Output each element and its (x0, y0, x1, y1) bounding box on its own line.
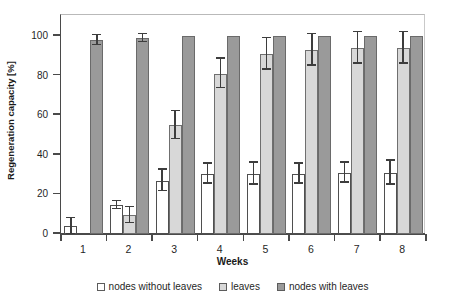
bar (351, 48, 364, 234)
error-bar-cap (171, 138, 180, 139)
error-bar-cap (386, 183, 395, 184)
bar (397, 48, 410, 234)
error-bar-cap (125, 222, 134, 223)
error-bar-cap (340, 181, 349, 182)
error-bar-line (311, 34, 312, 66)
bar-chart-figure: Regeneration capacity [%] 020406080100 1… (0, 0, 465, 307)
bar (273, 36, 286, 234)
chart-legend: nodes without leavesleavesnodes with lea… (0, 281, 465, 292)
x-axis-tick (243, 234, 245, 241)
plot-area (60, 14, 425, 234)
y-axis-tick-label: 0 (0, 228, 48, 239)
error-bar-cap (262, 68, 271, 69)
error-bar-line (253, 163, 254, 185)
error-bar-cap (158, 190, 167, 191)
bar (169, 125, 182, 234)
y-axis-tick-label: 80 (0, 69, 48, 80)
error-bar-cap (294, 162, 303, 163)
error-bar-cap (138, 33, 147, 34)
error-bar-cap (399, 62, 408, 63)
error-bar-cap (340, 161, 349, 162)
x-axis-tick-label: 1 (71, 243, 95, 255)
error-bar-cap (249, 161, 258, 162)
error-bar-line (402, 32, 403, 64)
error-bar-cap (66, 233, 75, 234)
error-bar-cap (307, 33, 316, 34)
error-bar-line (298, 164, 299, 184)
x-axis-tick (425, 234, 427, 241)
y-axis-tick-label: 100 (0, 30, 48, 41)
error-bar-cap (307, 64, 316, 65)
light-gray-square-icon (219, 283, 227, 291)
bar (214, 74, 227, 234)
legend-item: nodes with leaves (277, 281, 369, 292)
dark-gray-square-icon (277, 283, 285, 291)
legend-item-label: leaves (231, 281, 260, 292)
error-bar-cap (216, 57, 225, 58)
error-bar-line (174, 111, 175, 139)
legend-item-label: nodes with leaves (289, 281, 369, 292)
error-bar-line (266, 38, 267, 70)
legend-item: nodes without leaves (97, 281, 202, 292)
legend-item: leaves (219, 281, 260, 292)
bar (260, 54, 273, 234)
white-square-icon (97, 283, 105, 291)
bar (110, 205, 123, 234)
error-bar-cap (249, 183, 258, 184)
error-bar-cap (158, 168, 167, 169)
bar (136, 38, 149, 234)
error-bar-cap (203, 162, 212, 163)
bar (227, 36, 240, 234)
x-axis-tick (197, 234, 199, 241)
bar (364, 36, 377, 234)
error-bar-cap (112, 208, 121, 209)
x-axis-title: Weeks (0, 256, 465, 267)
x-axis-tick-label: 3 (162, 243, 186, 255)
x-axis-tick-label: 5 (253, 243, 277, 255)
x-axis-tick-label: 7 (345, 243, 369, 255)
error-bar-cap (399, 31, 408, 32)
bar (182, 36, 195, 234)
error-bar-cap (112, 200, 121, 201)
error-bar-cap (171, 110, 180, 111)
legend-item-label: nodes without leaves (109, 281, 202, 292)
bar (318, 36, 331, 234)
error-bar-line (344, 163, 345, 183)
x-axis-tick (288, 234, 290, 241)
x-axis-tick-label: 6 (299, 243, 323, 255)
error-bar-cap (92, 44, 101, 45)
error-bar-line (161, 170, 162, 192)
error-bar-line (220, 59, 221, 89)
error-bar-cap (125, 206, 134, 207)
error-bar-cap (262, 37, 271, 38)
x-axis-tick (106, 234, 108, 241)
x-axis-tick-label: 8 (390, 243, 414, 255)
x-axis-tick (379, 234, 381, 241)
error-bar-cap (138, 41, 147, 42)
bar-groups (61, 15, 424, 234)
y-axis-tick-label: 20 (0, 188, 48, 199)
error-bar-cap (216, 87, 225, 88)
error-bar-cap (353, 31, 362, 32)
x-axis-tick (60, 234, 62, 241)
error-bar-cap (92, 34, 101, 35)
error-bar-cap (386, 159, 395, 160)
bar (90, 40, 103, 234)
y-axis-tick-label: 60 (0, 109, 48, 120)
error-bar-cap (353, 62, 362, 63)
x-axis-tick-label: 2 (116, 243, 140, 255)
x-axis-tick (334, 234, 336, 241)
error-bar-line (207, 164, 208, 184)
bar (305, 50, 318, 234)
x-axis-tick-label: 4 (208, 243, 232, 255)
error-bar-line (357, 32, 358, 64)
x-axis-tick (151, 234, 153, 241)
bar (410, 36, 423, 234)
error-bar-cap (66, 217, 75, 218)
error-bar-line (389, 161, 390, 185)
y-axis-tick-label: 40 (0, 148, 48, 159)
error-bar-cap (294, 182, 303, 183)
error-bar-cap (203, 182, 212, 183)
